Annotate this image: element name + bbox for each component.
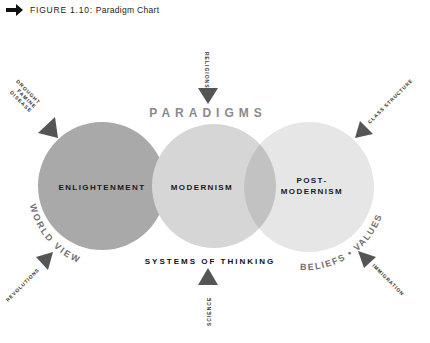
force-science: SCIENCE <box>198 268 218 326</box>
diagram-subtitle: SYSTEMS OF THINKING <box>145 257 275 266</box>
force-class-structure: CLASS STRUCTURE <box>355 77 414 138</box>
diagram-title: PARADIGMS <box>149 106 266 120</box>
paradigm-diagram: ENLIGHTENMENT MODERNISM POST- MODERNISM … <box>0 0 430 343</box>
force-drought-famine-disease: DROUGHT FAMINE DISEASE <box>6 78 58 138</box>
label-enlightenment: ENLIGHTENMENT <box>58 183 145 192</box>
label-postmodernism: MODERNISM <box>281 187 343 196</box>
force-label-immigration: IMMIGRATION <box>371 262 405 296</box>
force-label-religions: RELIGIONS <box>204 52 210 89</box>
force-label-science: SCIENCE <box>206 297 212 326</box>
diagonal-arrow-icon <box>36 252 53 270</box>
force-immigration: IMMIGRATION <box>358 251 406 297</box>
label-post: POST- <box>296 176 327 185</box>
label-modernism: MODERNISM <box>171 183 233 192</box>
force-revolutions: REVOLUTIONS <box>4 252 53 303</box>
force-label-class-structure: CLASS STRUCTURE <box>366 77 413 124</box>
force-religions: RELIGIONS <box>198 52 218 104</box>
up-arrow-icon <box>198 268 218 285</box>
down-arrow-icon <box>198 88 218 104</box>
diagonal-arrow-icon <box>38 117 58 138</box>
force-label-revolutions: REVOLUTIONS <box>4 267 40 303</box>
